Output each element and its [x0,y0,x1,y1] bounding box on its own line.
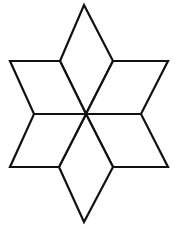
six-rhombus-star [0,0,185,229]
